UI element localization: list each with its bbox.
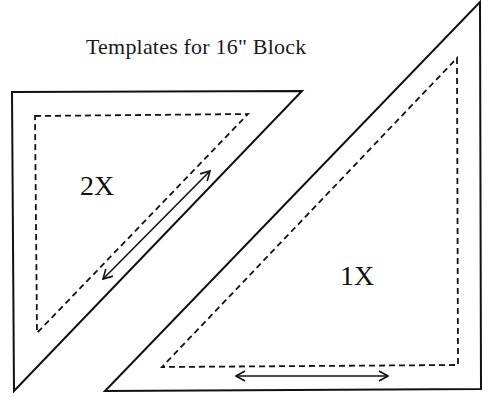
template-label-1x: 1X xyxy=(340,262,374,290)
grain-arrow-icon xyxy=(103,171,210,279)
template-label-2x: 2X xyxy=(80,172,114,200)
template-2x-cut-line xyxy=(12,91,302,391)
template-1x-cut-line xyxy=(105,2,481,391)
template-2x-seam-line xyxy=(35,114,248,333)
template-1x-seam-line xyxy=(162,58,458,367)
diagram-title: Templates for 16" Block xyxy=(86,34,306,60)
templates-diagram xyxy=(0,0,493,410)
